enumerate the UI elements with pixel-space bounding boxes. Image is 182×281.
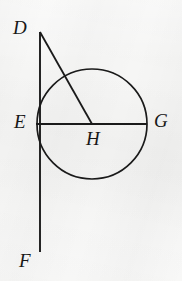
vertex-label-f: F (19, 251, 31, 270)
segment-DH (40, 32, 92, 124)
vertex-label-h: H (86, 129, 100, 148)
geometry-figure: D E G H F (0, 0, 182, 281)
vertex-label-d: D (13, 18, 27, 37)
vertex-label-e: E (14, 112, 26, 131)
vertex-label-g: G (154, 111, 168, 130)
